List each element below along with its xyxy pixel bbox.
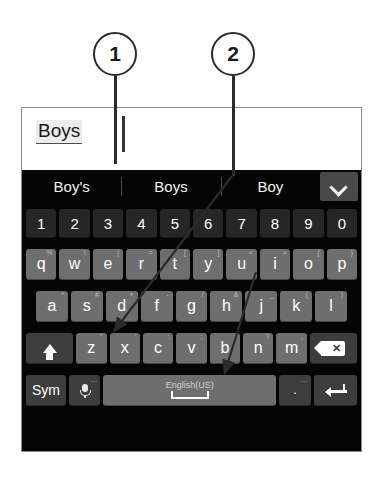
- key-alt-label: >: [282, 249, 286, 257]
- key-alt-label: ": [100, 333, 103, 341]
- key-alt-label: \: [84, 249, 86, 257]
- keyboard-row-top: %q \w |e =r [t ]y <u >i {o }p: [22, 243, 361, 285]
- spacebar-key[interactable]: English(US): [103, 375, 276, 406]
- key-l[interactable]: )l: [315, 291, 347, 322]
- key-b[interactable]: !b: [210, 333, 240, 364]
- key-r[interactable]: =r: [126, 249, 156, 280]
- microphone-key[interactable]: ...: [69, 375, 101, 406]
- key-label: z: [87, 339, 95, 357]
- key-label: o: [304, 255, 313, 273]
- key-o[interactable]: {o: [293, 249, 323, 280]
- key-8[interactable]: 8: [260, 209, 290, 238]
- key-label: 6: [204, 215, 212, 232]
- key-x[interactable]: 'x: [110, 333, 140, 364]
- key-alt-label: ': [135, 333, 136, 341]
- suggestion-item-1[interactable]: Boys: [121, 170, 220, 203]
- key-7[interactable]: 7: [226, 209, 256, 238]
- key-e[interactable]: |e: [93, 249, 123, 280]
- key-v[interactable]: ;v: [176, 333, 206, 364]
- key-m[interactable]: ,m: [276, 333, 306, 364]
- backspace-key[interactable]: ✕: [310, 333, 357, 364]
- key-9[interactable]: 9: [293, 209, 323, 238]
- key-label: e: [104, 255, 113, 273]
- key-n[interactable]: ?n: [243, 333, 273, 364]
- backspace-icon: ✕: [321, 341, 345, 356]
- key-alt-label: =: [149, 249, 153, 257]
- key-d[interactable]: +d: [106, 291, 138, 322]
- shift-key[interactable]: [26, 333, 73, 364]
- suggestion-item-2[interactable]: Boy: [221, 170, 320, 203]
- key-label: 8: [271, 215, 279, 232]
- key-1[interactable]: 1: [26, 209, 56, 238]
- key-w[interactable]: \w: [59, 249, 89, 280]
- key-alt-label: /: [202, 291, 204, 299]
- key-i[interactable]: >i: [260, 249, 290, 280]
- key-label: a: [47, 297, 56, 315]
- key-alt-label: &: [234, 291, 239, 299]
- key-alt-label: _: [269, 291, 273, 299]
- keyboard-row-bottom: "z 'x :c ;v !b ?n ,m ✕: [22, 327, 361, 369]
- callout-number-2: 2: [227, 42, 239, 66]
- key-alt-label: -: [166, 291, 168, 299]
- key-0[interactable]: 0: [327, 209, 357, 238]
- key-label: i: [273, 255, 277, 273]
- key-label: h: [222, 297, 231, 315]
- key-3[interactable]: 3: [93, 209, 123, 238]
- period-key[interactable]: ... .: [279, 375, 311, 406]
- key-p[interactable]: }p: [327, 249, 357, 280]
- key-label: j: [260, 297, 264, 315]
- enter-key[interactable]: [314, 375, 357, 406]
- key-5[interactable]: 5: [160, 209, 190, 238]
- key-u[interactable]: <u: [226, 249, 256, 280]
- key-h[interactable]: &h: [210, 291, 242, 322]
- microphone-key-alt: ...: [90, 376, 97, 383]
- enter-arrow-icon: [325, 384, 345, 397]
- symbols-key[interactable]: Sym: [26, 375, 66, 406]
- key-6[interactable]: 6: [193, 209, 223, 238]
- keyboard-language-label: English(US): [166, 381, 214, 390]
- key-s[interactable]: #s: [71, 291, 103, 322]
- key-c[interactable]: :c: [143, 333, 173, 364]
- key-4[interactable]: 4: [126, 209, 156, 238]
- key-alt-label: ]: [217, 249, 219, 257]
- key-label: 1: [37, 215, 45, 232]
- key-q[interactable]: %q: [26, 249, 56, 280]
- key-j[interactable]: _j: [245, 291, 277, 322]
- key-alt-label: ?: [266, 333, 270, 341]
- key-y[interactable]: ]y: [193, 249, 223, 280]
- key-alt-label: !: [234, 333, 236, 341]
- key-alt-label: ): [341, 291, 343, 299]
- key-label: 2: [70, 215, 78, 232]
- key-label: y: [204, 255, 212, 273]
- callout-number-1: 1: [109, 42, 121, 66]
- suggestion-item-0[interactable]: Boy's: [22, 170, 121, 203]
- key-z[interactable]: "z: [76, 333, 106, 364]
- key-label: 4: [137, 215, 145, 232]
- text-cursor: [122, 116, 125, 152]
- text-input-field[interactable]: Boys: [22, 108, 361, 170]
- key-2[interactable]: 2: [59, 209, 89, 238]
- key-a[interactable]: *a: [36, 291, 68, 322]
- key-label: q: [37, 255, 46, 273]
- suggestions-expand-button[interactable]: [320, 172, 358, 201]
- callout-marker-2: 2: [211, 32, 255, 76]
- shift-arrow-icon: [43, 344, 57, 353]
- key-label: 0: [338, 215, 346, 232]
- onscreen-keyboard: Boy's Boys Boy 1 2 3 4 5 6 7 8 9 0 %q \w…: [22, 170, 361, 452]
- composing-text: Boys: [36, 120, 82, 144]
- key-label: x: [121, 339, 129, 357]
- key-label: u: [237, 255, 246, 273]
- key-f[interactable]: -f: [141, 291, 173, 322]
- key-k[interactable]: (k: [280, 291, 312, 322]
- key-label: t: [173, 255, 177, 273]
- keyboard-row-function: Sym ... English(US) ... .: [22, 369, 361, 411]
- microphone-icon: [80, 384, 89, 397]
- key-t[interactable]: [t: [160, 249, 190, 280]
- key-label: c: [154, 339, 162, 357]
- key-g[interactable]: /g: [176, 291, 208, 322]
- key-alt-label: +: [130, 291, 134, 299]
- spacebar-icon: [171, 391, 209, 399]
- key-label: l: [329, 297, 333, 315]
- chevron-down-icon: [331, 179, 346, 194]
- key-label: v: [187, 339, 195, 357]
